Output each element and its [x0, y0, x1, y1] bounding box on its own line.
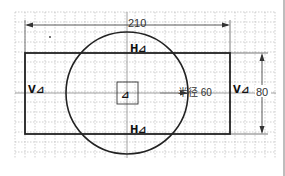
perpendicular-icon: ⊿: [138, 124, 146, 135]
arrow-left-icon: [25, 23, 33, 28]
sketch-point[interactable]: [49, 36, 51, 38]
width-dimension-label[interactable]: 210: [128, 17, 146, 29]
perpendicular-icon: ⊿: [138, 43, 146, 54]
constraint-bottom[interactable]: H ⊿: [130, 124, 146, 135]
vertical-constraint-label: V: [28, 84, 36, 95]
perpendicular-icon: ⊿: [36, 84, 44, 95]
perpendicular-icon: ⊿: [241, 84, 249, 95]
arrow-right-icon: [222, 23, 230, 28]
vertical-constraint-label: V: [233, 84, 241, 95]
radius-dimension-label[interactable]: 半径 60: [178, 86, 212, 98]
window-border: [283, 0, 285, 176]
center-constraint-icon: ⊿: [121, 89, 129, 100]
constraint-left[interactable]: V ⊿: [28, 84, 44, 95]
width-dimension[interactable]: 210: [25, 17, 230, 29]
arrow-up-icon: [260, 53, 265, 61]
constraint-top[interactable]: H ⊿: [130, 43, 146, 54]
height-dimension[interactable]: 80: [255, 53, 271, 134]
arrow-down-icon: [260, 126, 265, 134]
height-dimension-label[interactable]: 80: [256, 86, 268, 98]
constraint-right[interactable]: V ⊿: [233, 84, 249, 95]
sketch-canvas[interactable]: 210 80 半径 60 H ⊿ H ⊿ V ⊿ V ⊿ ⊿: [0, 0, 285, 176]
radius-dimension[interactable]: 半径 60: [160, 86, 212, 98]
